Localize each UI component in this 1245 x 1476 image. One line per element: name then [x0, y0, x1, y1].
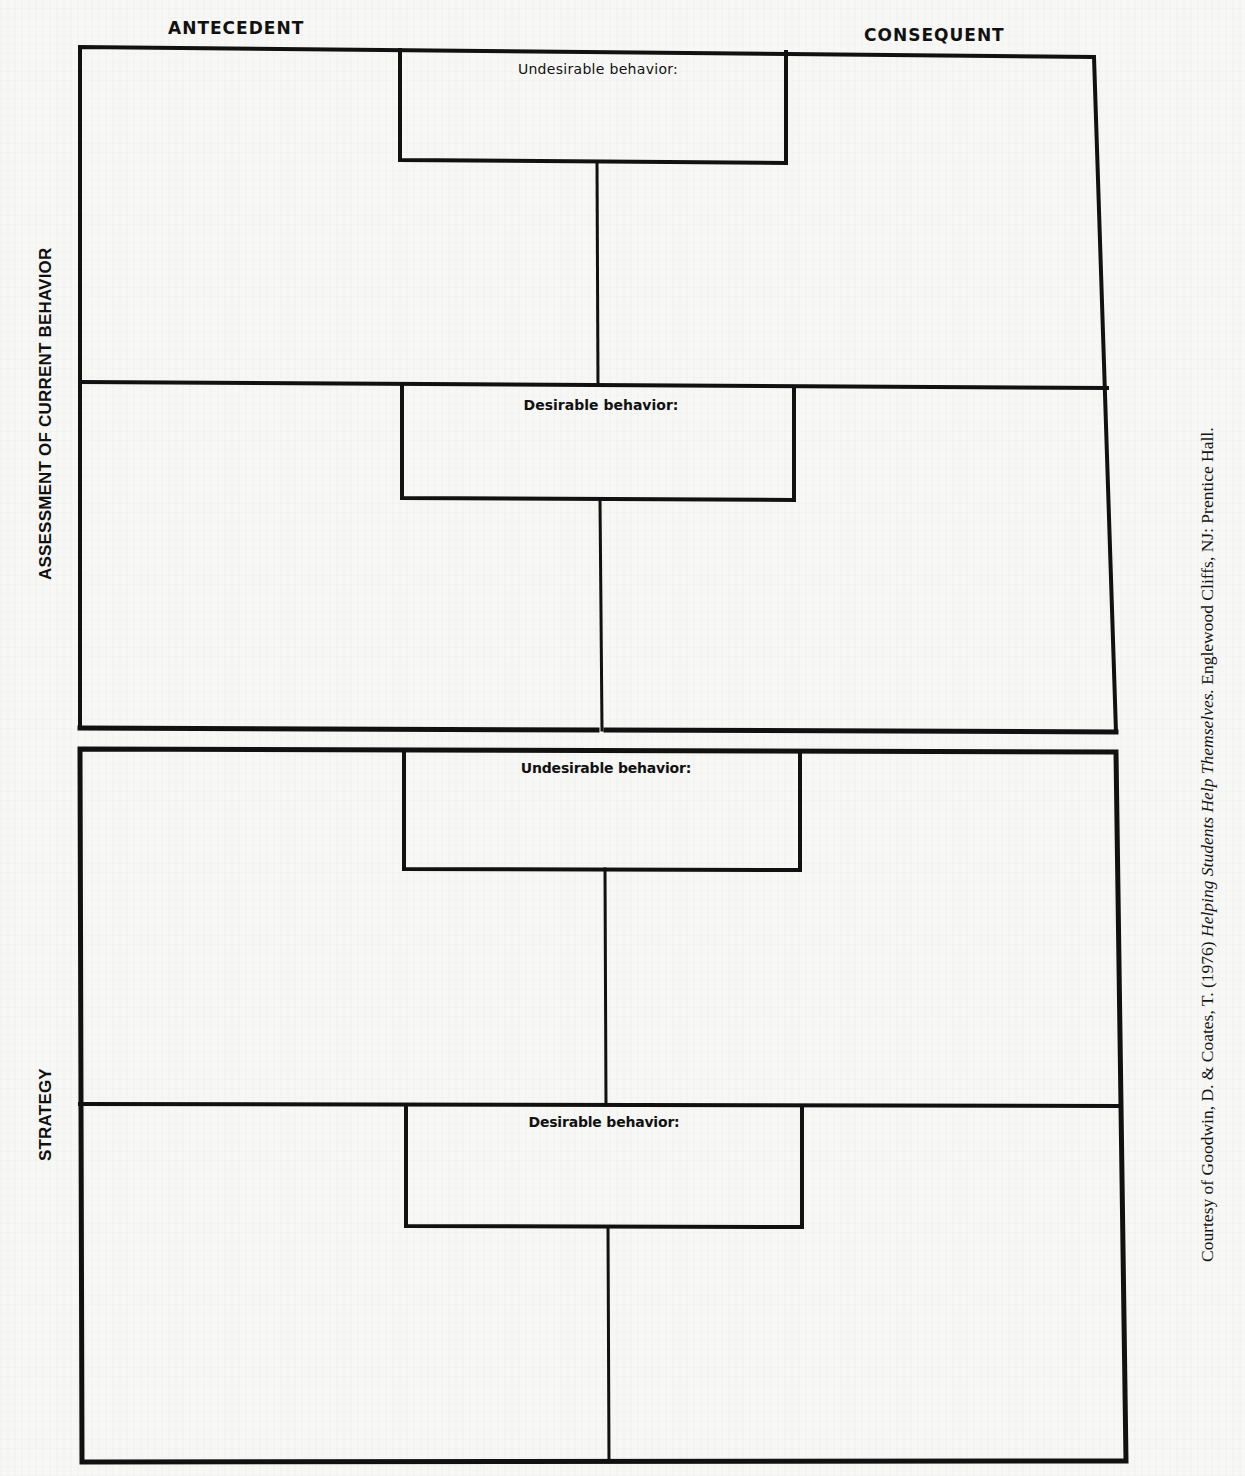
assessment-desirable-behavior-field[interactable]: [408, 420, 788, 494]
assessment-desirable-label: Desirable behavior:: [524, 397, 679, 413]
citation: Courtesy of Goodwin, D. & Coates, T. (19…: [1196, 182, 1218, 1262]
assessment-desirable-consequent-cell[interactable]: [800, 394, 1100, 724]
strategy-desirable-antecedent-cell[interactable]: [86, 1112, 400, 1456]
citation-prefix: Courtesy of Goodwin, D. & Coates, T. (19…: [1197, 937, 1217, 1262]
strategy-desirable-behavior-field[interactable]: [412, 1140, 796, 1220]
assessment-desirable-antecedent-cell[interactable]: [86, 390, 396, 722]
strategy-undesirable-consequent-cell[interactable]: [806, 758, 1110, 1100]
strategy-desirable-consequent-cell[interactable]: [808, 1112, 1118, 1456]
assessment-undesirable-consequent-cell[interactable]: [792, 60, 1092, 380]
assessment-undesirable-antecedent-cell[interactable]: [86, 56, 394, 378]
assessment-undesirable-label: Undesirable behavior:: [518, 61, 678, 77]
strategy-undesirable-antecedent-cell[interactable]: [86, 756, 398, 1098]
strategy-undesirable-behavior-field[interactable]: [410, 786, 794, 864]
strategy-undesirable-label: Undesirable behavior:: [521, 760, 691, 776]
citation-title: Helping Students Help Themselves.: [1197, 689, 1217, 937]
strategy-desirable-label: Desirable behavior:: [529, 1114, 680, 1130]
citation-suffix: Englewood Cliffs, NJ: Prentice Hall.: [1197, 427, 1217, 689]
assessment-undesirable-behavior-field[interactable]: [406, 86, 780, 156]
